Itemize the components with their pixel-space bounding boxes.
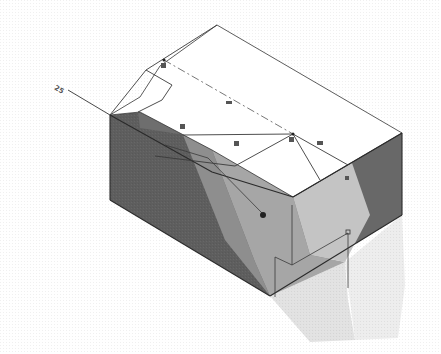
origin-icon[interactable] — [260, 212, 266, 218]
coincident-icon[interactable] — [161, 63, 166, 68]
endpoint-icon[interactable] — [345, 176, 349, 180]
parallel-icon[interactable] — [180, 124, 185, 129]
isometric-model-view: 25 — [0, 0, 441, 354]
vertex-dot-center[interactable] — [292, 133, 295, 136]
horizontal-icon[interactable] — [317, 141, 323, 145]
perpendicular-icon[interactable] — [289, 137, 294, 142]
midpoint-icon[interactable] — [226, 101, 232, 104]
vertex-dot[interactable] — [163, 59, 166, 62]
fixed-icon[interactable] — [234, 141, 239, 146]
